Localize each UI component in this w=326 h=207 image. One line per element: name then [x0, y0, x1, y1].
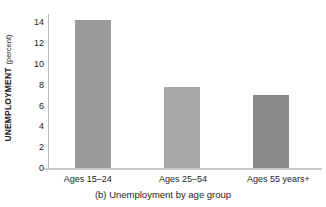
y-axis-tick-label: 10: [22, 60, 44, 69]
x-axis-category-label: Ages 25–54: [135, 173, 230, 186]
y-axis-tick-label: 14: [22, 18, 44, 27]
y-axis-tick-label: 8: [22, 80, 44, 89]
y-axis-title: UNEMPLOYMENT (percent): [0, 0, 16, 175]
y-axis-tick-label: 2: [22, 143, 44, 152]
y-axis-title-main: UNEMPLOYMENT: [3, 67, 13, 141]
bar-series: [48, 12, 316, 168]
x-axis-category-label: Ages 15–24: [40, 173, 135, 186]
y-axis-tick-label: 12: [22, 39, 44, 48]
y-axis-title-unit: (percent): [4, 34, 13, 64]
y-axis-tick-label: 6: [22, 101, 44, 110]
bar: [75, 20, 111, 168]
bar: [164, 87, 200, 168]
unemployment-by-age-group-chart: UNEMPLOYMENT (percent) 02468101214 Ages …: [0, 0, 326, 207]
y-axis-tick-label: 4: [22, 122, 44, 131]
y-axis-tick-label: 0: [22, 164, 44, 173]
x-axis-category-labels: Ages 15–24Ages 25–54Ages 55 years+: [40, 173, 326, 186]
x-axis-line: [44, 168, 322, 170]
bar: [253, 95, 289, 168]
figure-caption: (b) Unemployment by age group: [0, 188, 326, 201]
x-axis-category-label: Ages 55 years+: [231, 173, 326, 186]
